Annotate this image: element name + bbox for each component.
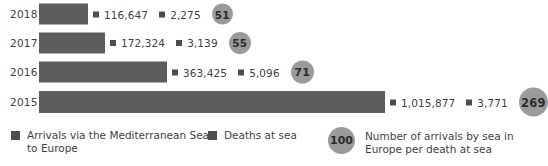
deaths-value-group: 5,096 [238, 66, 280, 78]
row-values: 363,425 5,096 71 [172, 61, 314, 84]
chart-row-2018: 2018 116,647 2,275 51 [0, 1, 546, 27]
deaths-marker-icon [176, 40, 182, 46]
year-label: 2018 [10, 8, 38, 20]
deaths-value: 2,275 [170, 8, 201, 20]
ratio-bubble: 71 [291, 61, 314, 84]
arrivals-value: 172,324 [121, 37, 165, 49]
ratio-bubble: 51 [212, 4, 233, 25]
arrivals-value-group: 363,425 [172, 66, 227, 78]
arrivals-bar [39, 91, 385, 113]
year-label: 2017 [10, 37, 38, 49]
arrivals-marker-icon [110, 40, 116, 46]
arrivals-value: 363,425 [183, 66, 227, 78]
chart-row-2016: 2016 363,425 5,096 71 [0, 59, 546, 85]
arrivals-marker-icon [390, 99, 396, 105]
legend-item-ratio: 100 Number of arrivals by sea in Europe … [328, 127, 545, 156]
arrivals-marker-icon [172, 69, 178, 75]
ratio-bubble: 55 [229, 32, 251, 54]
ratio-swatch-icon: 100 [328, 127, 355, 154]
arrivals-value: 116,647 [104, 8, 148, 20]
deaths-value-group: 3,139 [176, 37, 218, 49]
legend-item-deaths: Deaths at sea [208, 129, 297, 142]
row-values: 172,324 3,139 55 [110, 32, 251, 54]
deaths-marker-icon [466, 99, 472, 105]
deaths-swatch-icon [208, 131, 217, 140]
row-values: 116,647 2,275 51 [93, 4, 233, 25]
deaths-value-group: 2,275 [159, 8, 201, 20]
arrivals-swatch-icon [11, 131, 20, 140]
chart-row-2015: 2015 1,015,877 3,771 269 [0, 89, 546, 115]
legend-arrivals-label: Arrivals via the Mediterranean Sea to Eu… [27, 129, 217, 155]
row-values: 1,015,877 3,771 269 [390, 88, 548, 117]
arrivals-value-group: 1,015,877 [390, 96, 455, 108]
deaths-marker-icon [159, 11, 165, 17]
deaths-value-group: 3,771 [466, 96, 508, 108]
arrivals-value-group: 116,647 [93, 8, 148, 20]
year-label: 2015 [10, 96, 38, 108]
year-label: 2016 [10, 66, 38, 78]
legend-deaths-label: Deaths at sea [224, 129, 297, 142]
arrivals-value: 1,015,877 [401, 96, 455, 108]
chart-row-2017: 2017 172,324 3,139 55 [0, 30, 546, 56]
deaths-value: 5,096 [249, 66, 280, 78]
chart-legend: Arrivals via the Mediterranean Sea to Eu… [0, 124, 546, 166]
arrivals-marker-icon [93, 11, 99, 17]
arrivals-bar [39, 62, 167, 83]
arrivals-bar [39, 4, 88, 25]
ratio-bubble: 269 [519, 88, 548, 117]
legend-ratio-label: Number of arrivals by sea in Europe per … [365, 130, 545, 156]
arrivals-value-group: 172,324 [110, 37, 165, 49]
deaths-value: 3,139 [187, 37, 218, 49]
legend-item-arrivals: Arrivals via the Mediterranean Sea to Eu… [11, 129, 217, 155]
deaths-marker-icon [238, 69, 244, 75]
deaths-value: 3,771 [477, 96, 508, 108]
arrivals-bar [39, 33, 105, 54]
